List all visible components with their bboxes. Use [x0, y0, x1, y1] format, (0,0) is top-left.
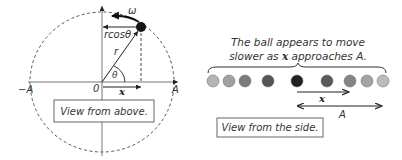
theta-label: θ — [112, 70, 118, 80]
A-label-side: A — [338, 109, 346, 120]
origin-label: 0 — [93, 83, 99, 94]
curly-brace — [208, 63, 386, 73]
ball-side-view — [207, 75, 219, 87]
ball-side-view — [377, 75, 389, 87]
side-description-line2: slower as x approaches A. — [229, 50, 367, 62]
side-view-diagram: The ball appears to move slower as x app… — [207, 36, 389, 137]
x-label-side: x — [318, 93, 326, 104]
ball-side-view — [291, 75, 303, 87]
omega-arrow — [112, 16, 139, 22]
r-label: r — [114, 46, 119, 57]
neg-A-label: −A — [18, 84, 33, 95]
top-view-caption: View from above. — [60, 106, 148, 117]
ball-side-view — [262, 75, 274, 87]
top-view-diagram: ω rcosθ r θ 0 x −A A View from above. — [18, 5, 179, 156]
pos-A-label: A — [171, 84, 179, 95]
x-label-top: x — [118, 86, 126, 97]
side-view-caption: View from the side. — [221, 122, 318, 133]
omega-label: ω — [128, 5, 136, 16]
ball-top-view — [136, 22, 146, 32]
diagram-canvas: ω rcosθ r θ 0 x −A A View from above. Th… — [0, 0, 402, 160]
ball-side-view — [321, 75, 333, 87]
ball-side-view — [344, 75, 356, 87]
ball-side-view — [223, 75, 235, 87]
ball-side-view — [239, 75, 251, 87]
side-description-line1: The ball appears to move — [231, 36, 365, 48]
rcos-label: rcosθ — [104, 29, 131, 40]
ball-positions — [207, 75, 389, 87]
ball-side-view — [361, 75, 373, 87]
